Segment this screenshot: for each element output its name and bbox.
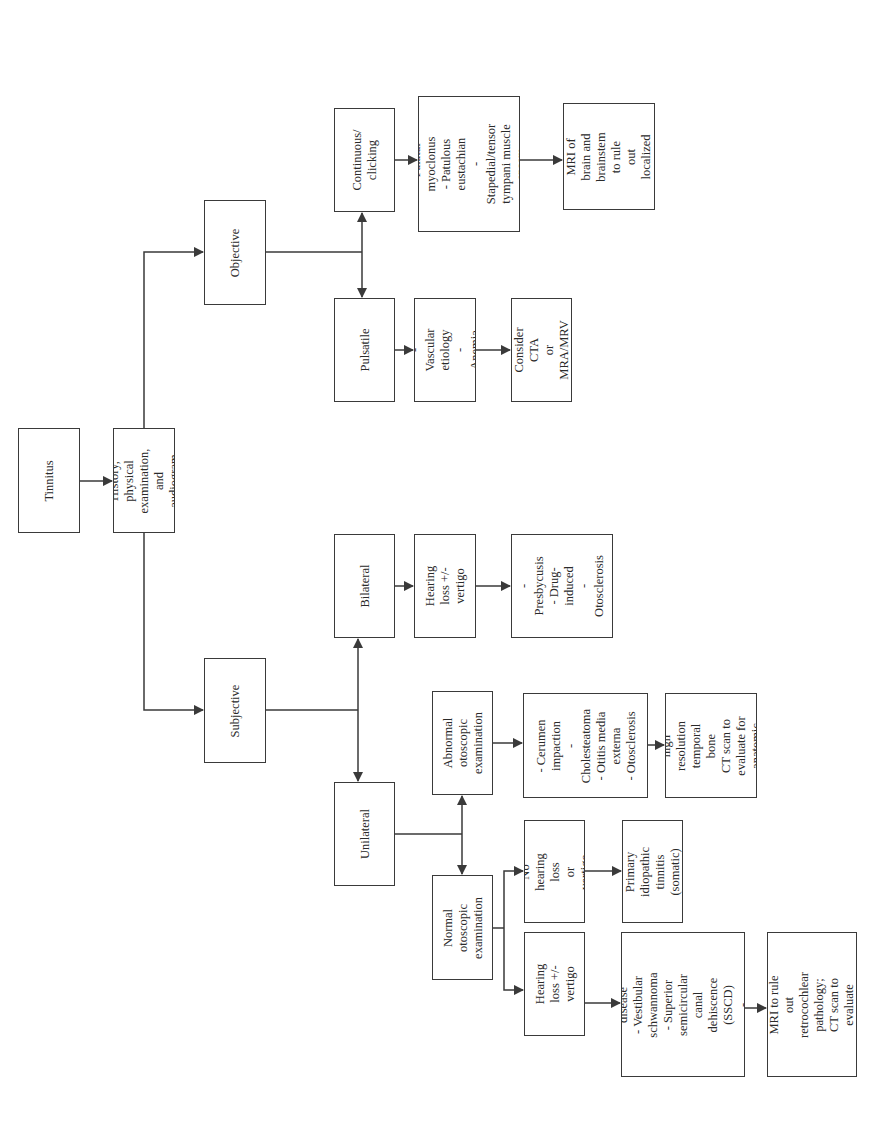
- node-pulsatile: Pulsatile: [334, 298, 395, 402]
- node-label: - Meniere's disease - Vestibular schwann…: [621, 972, 745, 1037]
- node-label: Tinnitus: [42, 460, 57, 501]
- node-label: Hearing loss +/- vertigo: [532, 964, 577, 1004]
- node-label: Consider MRI of brain and brainstem to r…: [563, 132, 655, 181]
- node-unilateral-causes: - Meniere's disease - Vestibular schwann…: [621, 932, 745, 1077]
- node-label: Normal otoscopic examination: [440, 897, 485, 959]
- node-objective: Objective: [204, 200, 266, 305]
- node-history-exam-audiogram: History, physical examination, and audio…: [113, 428, 175, 533]
- node-continuous-causes: - Palatal myoclonus - Patulous eustachia…: [418, 96, 520, 232]
- node-label: Subjective: [228, 684, 243, 737]
- node-bilateral-hearing-loss: Hearing loss +/- vertigo: [414, 534, 476, 638]
- node-label: Unilateral: [357, 809, 372, 859]
- node-mri-retrocochlear: Consider MRI to rule out retrocochlear p…: [767, 932, 857, 1077]
- node-label: Abnormal otoscopic examination: [440, 712, 485, 774]
- node-label: No hearing loss or vertigo: [524, 853, 585, 890]
- node-no-hearing-loss: No hearing loss or vertigo: [524, 820, 585, 923]
- node-unilateral-hearing-loss: Hearing loss +/- vertigo: [524, 932, 585, 1036]
- tinnitus-flowchart: Tinnitus History, physical examination, …: [0, 0, 872, 1134]
- node-abnormal-otoscopic: Abnormal otoscopic examination: [432, 691, 493, 795]
- node-label: Consider high resolution temporal bone C…: [665, 715, 757, 775]
- node-label: History, physical examination, and audio…: [113, 448, 175, 513]
- node-bilateral-causes: - Presbycusis - Drug-induced - Otosclero…: [511, 534, 613, 638]
- node-label: - Palatal myoclonus - Patulous eustachia…: [418, 124, 520, 205]
- node-label: - Vascular etiology - Anemia: [414, 328, 476, 371]
- node-label: Objective: [228, 228, 243, 277]
- node-label: - Presbycusis - Drug-induced - Otosclero…: [517, 555, 607, 617]
- node-bilateral: Bilateral: [334, 534, 395, 638]
- node-subjective: Subjective: [204, 658, 266, 763]
- node-abnormal-causes: - Cerumen impaction - Cholesteatoma - Ot…: [523, 693, 648, 798]
- node-label: Bilateral: [357, 564, 372, 607]
- node-mri-brain: Consider MRI of brain and brainstem to r…: [563, 103, 655, 210]
- node-unilateral: Unilateral: [334, 782, 395, 886]
- node-pulsatile-causes: - Vascular etiology - Anemia: [414, 298, 476, 402]
- node-label: Primary idiopathic tinnitis (somatic): [623, 847, 683, 897]
- node-label: - Cerumen impaction - Cholesteatoma - Ot…: [533, 708, 638, 782]
- node-tinnitus: Tinnitus: [18, 428, 80, 533]
- node-label: Consider CTA or MRA/MRV: [512, 320, 572, 379]
- node-cta-mra: Consider CTA or MRA/MRV: [511, 298, 572, 402]
- node-high-res-ct: Consider high resolution temporal bone C…: [665, 693, 757, 798]
- node-primary-idiopathic: Primary idiopathic tinnitis (somatic): [622, 820, 683, 923]
- node-continuous-clicking: Continuous/ clicking: [334, 108, 395, 212]
- node-label: Hearing loss +/- vertigo: [423, 566, 468, 606]
- node-label: Continuous/ clicking: [350, 129, 380, 190]
- node-label: Consider MRI to rule out retrocochlear p…: [767, 972, 857, 1038]
- node-label: Pulsatile: [357, 328, 372, 371]
- node-normal-otoscopic: Normal otoscopic examination: [432, 875, 493, 980]
